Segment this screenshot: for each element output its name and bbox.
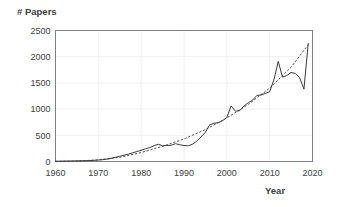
x-tick-label: 1970 (88, 168, 108, 178)
y-axis-title: # Papers (17, 6, 57, 17)
papers-per-year-line-chart: 05001000150020002500 1960197019801990200… (0, 0, 339, 207)
x-tick-label: 2020 (302, 168, 322, 178)
chart-figure: 05001000150020002500 1960197019801990200… (0, 0, 339, 207)
x-axis-title: Year (265, 185, 285, 196)
y-tick-label: 1000 (30, 104, 50, 114)
y-tick-label: 0 (45, 157, 50, 167)
y-tick-label: 1500 (30, 78, 50, 88)
x-tick-label: 1960 (45, 168, 65, 178)
x-tick-label: 1990 (174, 168, 194, 178)
y-tick-label: 2000 (30, 52, 50, 62)
x-tick-label: 2010 (260, 168, 280, 178)
y-tick-label: 2500 (30, 26, 50, 36)
x-tick-label: 2000 (217, 168, 237, 178)
y-tick-label: 500 (35, 131, 50, 141)
x-tick-label: 1980 (131, 168, 151, 178)
